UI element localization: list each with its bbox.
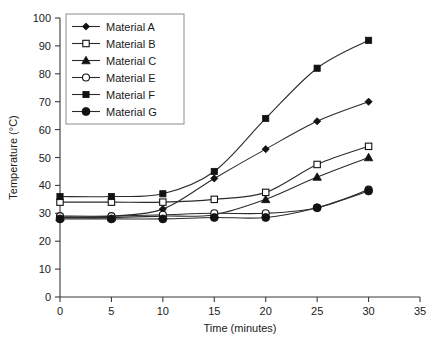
y-tick-label: 40: [39, 179, 51, 191]
data-point: [313, 204, 321, 212]
legend-label: Material C: [106, 55, 156, 67]
y-axis-title: Temperature (°C): [7, 115, 19, 199]
data-point: [57, 193, 63, 199]
data-point: [160, 199, 166, 205]
data-point: [263, 115, 269, 121]
y-tick-label: 0: [45, 291, 51, 303]
data-point: [160, 191, 166, 197]
legend-label: Material E: [106, 72, 156, 84]
legend-label: Material G: [106, 106, 157, 118]
x-tick-label: 10: [157, 305, 169, 317]
x-tick-label: 0: [57, 305, 63, 317]
x-tick-label: 35: [414, 305, 426, 317]
y-tick-label: 20: [39, 235, 51, 247]
x-tick-label: 30: [362, 305, 374, 317]
data-point: [159, 215, 167, 223]
y-tick-label: 10: [39, 263, 51, 275]
legend-label: Material F: [106, 89, 155, 101]
y-tick-label: 80: [39, 68, 51, 80]
data-point: [314, 65, 320, 71]
data-point: [365, 37, 371, 43]
line-chart: 0102030405060708090100 05101520253035 Ti…: [0, 0, 433, 340]
data-point: [262, 213, 270, 221]
legend-marker-icon: [82, 108, 90, 116]
data-point: [211, 168, 217, 174]
x-axis-title: Time (minutes): [204, 322, 277, 334]
y-tick-label: 90: [39, 40, 51, 52]
data-point: [314, 161, 320, 167]
legend-label: Material B: [106, 38, 156, 50]
x-tick-label: 25: [311, 305, 323, 317]
x-tick-label: 5: [108, 305, 114, 317]
y-tick-label: 70: [39, 96, 51, 108]
legend-marker-icon: [83, 91, 89, 97]
legend-item-material-g[interactable]: Material G: [72, 106, 157, 118]
legend-marker-icon: [83, 74, 90, 81]
y-tick-label: 60: [39, 124, 51, 136]
chart-container: 0102030405060708090100 05101520253035 Ti…: [0, 0, 433, 340]
data-point: [365, 187, 373, 195]
legend-label: Material A: [106, 21, 156, 33]
y-tick-label: 50: [39, 152, 51, 164]
data-point: [108, 193, 114, 199]
data-point: [107, 215, 115, 223]
y-tick-label: 100: [33, 12, 51, 24]
data-point: [365, 143, 371, 149]
data-point: [210, 213, 218, 221]
chart-legend: Material AMaterial BMaterial CMaterial E…: [66, 14, 184, 124]
data-point: [56, 215, 64, 223]
legend-marker-icon: [83, 40, 89, 46]
y-tick-label: 30: [39, 207, 51, 219]
data-point: [211, 196, 217, 202]
x-tick-label: 20: [260, 305, 272, 317]
x-tick-label: 15: [208, 305, 220, 317]
